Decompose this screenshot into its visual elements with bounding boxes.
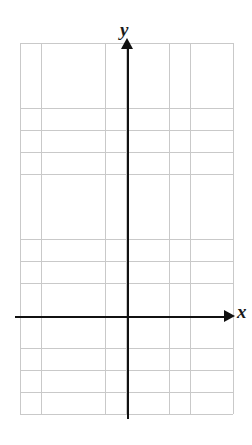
x-axis-arrow-icon	[224, 310, 235, 322]
x-axis-label: x	[237, 302, 247, 321]
x-axis-line	[15, 316, 231, 318]
y-axis-label: y	[120, 20, 128, 39]
grid-border-right	[233, 43, 234, 414]
coordinate-plane-figure: x y	[0, 0, 252, 445]
y-axis-line	[127, 47, 129, 419]
